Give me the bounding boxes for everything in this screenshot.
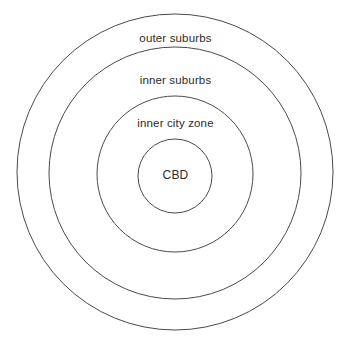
zone-label-cbd: CBD — [0, 169, 351, 182]
zone-label-inner-city-zone: inner city zone — [0, 117, 351, 130]
zone-label-inner-suburbs: inner suburbs — [0, 74, 351, 87]
urban-zone-diagram: outer suburbs inner suburbs inner city z… — [0, 0, 351, 347]
zone-label-outer-suburbs: outer suburbs — [0, 32, 351, 45]
